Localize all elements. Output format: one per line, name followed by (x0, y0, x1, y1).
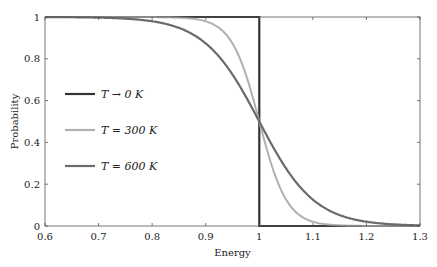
fermi-dirac-chart: 0.60.70.80.911.11.21.3 00.20.40.60.81 En… (0, 0, 437, 267)
plot-curves (45, 17, 420, 226)
plot-frame (45, 17, 420, 226)
y-axis-label: Probability (9, 93, 20, 149)
x-tick-label: 0.8 (144, 231, 160, 242)
legend-label: T → 0 K (101, 88, 144, 101)
x-axis-ticks: 0.60.70.80.911.11.21.3 (37, 17, 428, 242)
legend: T → 0 KT = 300 KT = 600 K (65, 88, 158, 173)
x-tick-label: 0.7 (91, 231, 107, 242)
y-tick-label: 0.2 (24, 179, 40, 190)
series-line-1 (45, 17, 420, 226)
legend-label: T = 300 K (101, 124, 158, 137)
x-tick-label: 0.9 (198, 231, 214, 242)
x-axis-label: Energy (214, 247, 251, 258)
y-tick-label: 0.4 (24, 137, 40, 148)
series-line-0 (45, 17, 420, 226)
y-tick-label: 0.6 (24, 95, 40, 106)
legend-label: T = 600 K (101, 160, 158, 173)
x-tick-label: 1 (256, 231, 262, 242)
y-tick-label: 1 (34, 12, 40, 23)
y-tick-label: 0 (34, 221, 40, 232)
x-tick-label: 0.6 (37, 231, 53, 242)
series-line-2 (45, 17, 420, 225)
legend-item: T = 300 K (65, 124, 158, 137)
y-tick-label: 0.8 (24, 53, 40, 64)
y-axis-ticks: 00.20.40.60.81 (24, 12, 420, 232)
x-tick-label: 1.3 (412, 231, 428, 242)
x-tick-label: 1.1 (305, 231, 321, 242)
legend-item: T = 600 K (65, 160, 158, 173)
x-tick-label: 1.2 (358, 231, 374, 242)
legend-item: T → 0 K (65, 88, 144, 101)
